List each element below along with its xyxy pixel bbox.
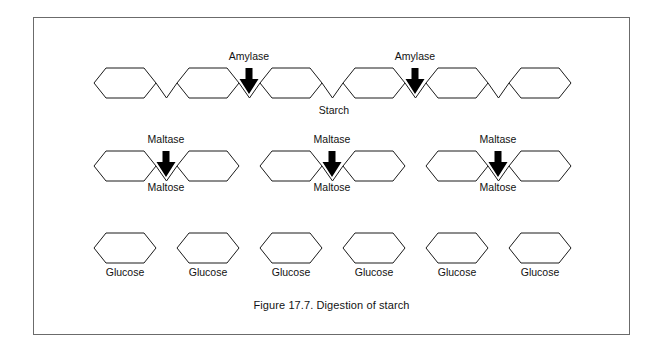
maltose-glucose-unit	[509, 151, 571, 181]
glucose-label: Glucose	[272, 266, 311, 278]
row-maltose: MaltaseMaltoseMaltaseMaltoseMaltaseMalto…	[94, 133, 571, 193]
glycosidic-bond	[488, 83, 509, 98]
glucose-unit	[94, 233, 156, 263]
amylase-label: Amylase	[229, 50, 269, 62]
starch-glucose-unit	[426, 68, 488, 98]
row-glucose: GlucoseGlucoseGlucoseGlucoseGlucoseGluco…	[94, 233, 571, 278]
starch-glucose-unit	[94, 68, 156, 98]
glucose-unit	[260, 233, 322, 263]
glucose-unit	[343, 233, 405, 263]
figure-root: AmylaseAmylaseStarch MaltaseMaltoseMalta…	[0, 0, 664, 353]
maltase-arrow	[157, 151, 176, 177]
glucose-label: Glucose	[106, 266, 145, 278]
amylase-label: Amylase	[395, 50, 435, 62]
glucose-label: Glucose	[355, 266, 394, 278]
maltase-label: Maltase	[314, 133, 351, 145]
glucose-unit	[509, 233, 571, 263]
starch-glucose-unit	[509, 68, 571, 98]
glucose-label: Glucose	[438, 266, 477, 278]
starch-glucose-unit	[177, 68, 239, 98]
amylase-arrow	[406, 68, 425, 94]
maltose-glucose-unit	[426, 151, 488, 181]
maltose-label: Maltose	[314, 181, 351, 193]
glycosidic-bond	[156, 83, 177, 98]
glycosidic-bond	[322, 83, 343, 98]
maltose-label: Maltose	[148, 181, 185, 193]
maltose-glucose-unit	[177, 151, 239, 181]
maltase-arrow	[489, 151, 508, 177]
maltose-glucose-unit	[94, 151, 156, 181]
starch-glucose-unit	[343, 68, 405, 98]
glucose-unit	[426, 233, 488, 263]
maltase-label: Maltase	[148, 133, 185, 145]
maltase-arrow	[323, 151, 342, 177]
maltase-label: Maltase	[480, 133, 517, 145]
maltose-label: Maltose	[480, 181, 517, 193]
glucose-unit	[177, 233, 239, 263]
row-starch: AmylaseAmylaseStarch	[94, 50, 571, 116]
figure-caption: Figure 17.7. Digestion of starch	[33, 299, 630, 311]
starch-label: Starch	[319, 104, 350, 116]
glucose-label: Glucose	[189, 266, 228, 278]
glucose-label: Glucose	[521, 266, 560, 278]
maltose-glucose-unit	[260, 151, 322, 181]
maltose-glucose-unit	[343, 151, 405, 181]
amylase-arrow	[240, 68, 259, 94]
starch-glucose-unit	[260, 68, 322, 98]
